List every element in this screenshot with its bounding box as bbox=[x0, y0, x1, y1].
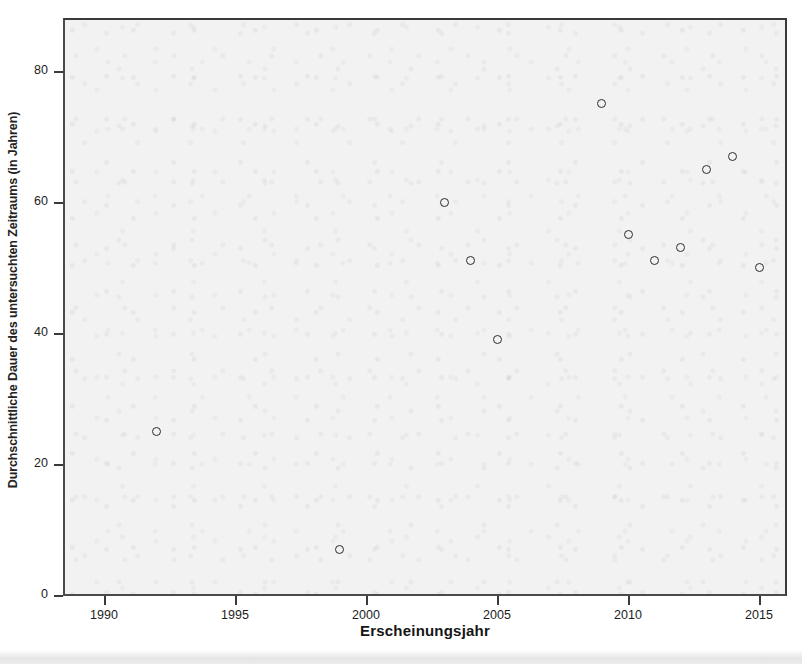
data-point-marker bbox=[624, 230, 633, 239]
y-axis-tick-label: 40 bbox=[8, 325, 48, 339]
x-axis-tick-label: 1995 bbox=[205, 608, 265, 622]
scatter-plot-figure: Durchschnittliche Dauer des untersuchten… bbox=[0, 0, 802, 664]
x-axis-tick-mark bbox=[235, 596, 237, 605]
data-point-marker bbox=[335, 545, 344, 554]
y-axis-tick-mark bbox=[54, 595, 63, 597]
data-point-marker bbox=[728, 152, 737, 161]
y-axis-title-container: Durchschnittliche Dauer des untersuchten… bbox=[0, 0, 26, 600]
y-axis-tick-mark bbox=[54, 333, 63, 335]
x-axis-tick-label: 1990 bbox=[74, 608, 134, 622]
x-axis-tick-label: 2010 bbox=[598, 608, 658, 622]
data-point-marker bbox=[440, 198, 449, 207]
data-point-marker bbox=[702, 165, 711, 174]
x-axis-tick-mark bbox=[104, 596, 106, 605]
x-axis-tick-mark bbox=[628, 596, 630, 605]
data-point-marker bbox=[152, 427, 161, 436]
plot-area bbox=[63, 18, 787, 596]
data-point-marker bbox=[493, 335, 502, 344]
x-axis-title: Erscheinungsjahr bbox=[63, 622, 787, 639]
x-axis-tick-mark bbox=[759, 596, 761, 605]
y-axis-tick-label: 80 bbox=[8, 63, 48, 77]
y-axis-tick-mark bbox=[54, 202, 63, 204]
x-axis-tick-mark bbox=[366, 596, 368, 605]
y-axis-title: Durchschnittliche Dauer des untersuchten… bbox=[6, 112, 20, 489]
x-axis-tick-label: 2000 bbox=[336, 608, 396, 622]
y-axis-tick-label: 60 bbox=[8, 194, 48, 208]
y-axis-tick-mark bbox=[54, 464, 63, 466]
data-point-marker bbox=[755, 263, 764, 272]
y-axis-tick-mark bbox=[54, 71, 63, 73]
y-axis-tick-label: 20 bbox=[8, 456, 48, 470]
y-axis-tick-label: 0 bbox=[8, 587, 48, 601]
scan-edge-smudge bbox=[0, 650, 802, 664]
x-axis-tick-mark bbox=[497, 596, 499, 605]
x-axis-tick-label: 2015 bbox=[729, 608, 789, 622]
x-axis-tick-label: 2005 bbox=[467, 608, 527, 622]
